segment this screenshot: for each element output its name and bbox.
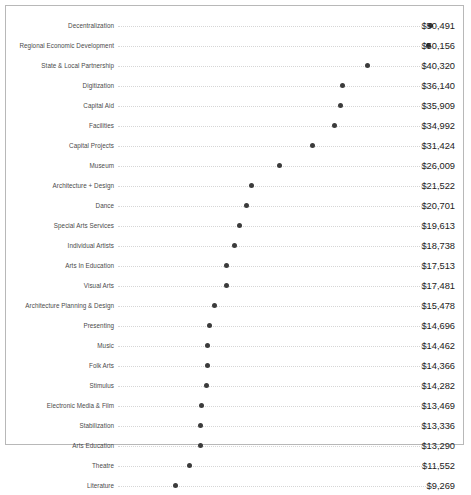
- leader-line: [118, 126, 450, 128]
- dot-plot-row[interactable]: Arts In Education$17,513: [6, 256, 463, 276]
- dot-plot-row[interactable]: Architecture + Design$21,522: [6, 176, 463, 196]
- dot-plot-row[interactable]: Capital Projects$31,424: [6, 136, 463, 156]
- leader-line: [118, 266, 450, 268]
- data-point-dot[interactable]: [244, 203, 249, 208]
- data-point-dot[interactable]: [338, 103, 343, 108]
- value-label: $14,696: [421, 316, 455, 336]
- leader-line: [118, 306, 450, 308]
- value-label: $21,522: [421, 176, 455, 196]
- value-label: $19,613: [421, 216, 455, 236]
- category-label: Capital Projects: [6, 136, 114, 156]
- dot-plot-row[interactable]: Museum$26,009: [6, 156, 463, 176]
- dot-plot-row[interactable]: Music$14,462: [6, 336, 463, 356]
- data-point-dot[interactable]: [173, 483, 178, 488]
- category-label: Visual Arts: [6, 276, 114, 296]
- leader-line: [118, 426, 450, 428]
- dot-plot-row[interactable]: Theatre$11,552: [6, 456, 463, 476]
- category-label: Literature: [6, 476, 114, 495]
- dot-plot-row[interactable]: Dance$20,701: [6, 196, 463, 216]
- value-label: $50,156: [421, 36, 455, 56]
- dot-plot-row[interactable]: Facilities$34,992: [6, 116, 463, 136]
- dot-plot-row[interactable]: Literature$9,269: [6, 476, 463, 495]
- value-label: $36,140: [421, 76, 455, 96]
- dot-plot-row[interactable]: Presenting$14,696: [6, 316, 463, 336]
- value-label: $13,290: [421, 436, 455, 456]
- value-label: $50,491: [421, 16, 455, 36]
- leader-line: [118, 26, 450, 28]
- category-label: Architecture Planning & Design: [6, 296, 114, 316]
- dot-plot-row[interactable]: Stabilization$13,336: [6, 416, 463, 436]
- category-label: Arts In Education: [6, 256, 114, 276]
- data-point-dot[interactable]: [237, 223, 242, 228]
- chart-frame: Decentralization$50,491Regional Economic…: [5, 5, 464, 445]
- data-point-dot[interactable]: [249, 183, 254, 188]
- value-label: $14,462: [421, 336, 455, 356]
- category-label: Digitization: [6, 76, 114, 96]
- value-label: $14,366: [421, 356, 455, 376]
- category-label: Regional Economic Development: [6, 36, 114, 56]
- category-label: Arts Education: [6, 436, 114, 456]
- leader-line: [118, 466, 450, 468]
- value-label: $14,282: [421, 376, 455, 396]
- data-point-dot[interactable]: [277, 163, 282, 168]
- dot-plot-rows: Decentralization$50,491Regional Economic…: [6, 6, 463, 444]
- dot-plot-row[interactable]: Regional Economic Development$50,156: [6, 36, 463, 56]
- category-label: Stimulus: [6, 376, 114, 396]
- category-label: Individual Artists: [6, 236, 114, 256]
- value-label: $26,009: [421, 156, 455, 176]
- leader-line: [118, 86, 450, 88]
- value-label: $11,552: [422, 456, 455, 476]
- data-point-dot[interactable]: [232, 243, 237, 248]
- data-point-dot[interactable]: [310, 143, 315, 148]
- data-point-dot[interactable]: [224, 263, 229, 268]
- data-point-dot[interactable]: [212, 303, 217, 308]
- leader-line: [118, 486, 450, 488]
- category-label: State & Local Partnership: [6, 56, 114, 76]
- value-label: $18,738: [421, 236, 455, 256]
- dot-plot-row[interactable]: Folk Arts$14,366: [6, 356, 463, 376]
- category-label: Capital Aid: [6, 96, 114, 116]
- category-label: Special Arts Services: [6, 216, 114, 236]
- data-point-dot[interactable]: [204, 383, 209, 388]
- category-label: Theatre: [6, 456, 114, 476]
- dot-plot-row[interactable]: Special Arts Services$19,613: [6, 216, 463, 236]
- dot-plot-row[interactable]: State & Local Partnership$40,320: [6, 56, 463, 76]
- leader-line: [118, 326, 450, 328]
- data-point-dot[interactable]: [224, 283, 229, 288]
- data-point-dot[interactable]: [207, 323, 212, 328]
- leader-line: [118, 286, 450, 288]
- leader-line: [118, 46, 450, 48]
- value-label: $15,478: [421, 296, 455, 316]
- category-label: Facilities: [6, 116, 114, 136]
- value-label: $9,269: [427, 476, 455, 495]
- value-label: $40,320: [421, 56, 455, 76]
- leader-line: [118, 446, 450, 448]
- leader-line: [118, 226, 450, 228]
- category-label: Presenting: [6, 316, 114, 336]
- value-label: $17,513: [421, 256, 455, 276]
- dot-plot-row[interactable]: Digitization$36,140: [6, 76, 463, 96]
- data-point-dot[interactable]: [198, 443, 203, 448]
- dot-plot-row[interactable]: Arts Education$13,290: [6, 436, 463, 456]
- leader-line: [118, 366, 450, 368]
- data-point-dot[interactable]: [365, 63, 370, 68]
- value-label: $31,424: [421, 136, 455, 156]
- category-label: Folk Arts: [6, 356, 114, 376]
- data-point-dot[interactable]: [340, 83, 345, 88]
- dot-plot-row[interactable]: Visual Arts$17,481: [6, 276, 463, 296]
- leader-line: [118, 206, 450, 208]
- leader-line: [118, 186, 450, 188]
- value-label: $34,992: [421, 116, 455, 136]
- leader-line: [118, 146, 450, 148]
- category-label: Museum: [6, 156, 114, 176]
- dot-plot-row[interactable]: Individual Artists$18,738: [6, 236, 463, 256]
- dot-plot-row[interactable]: Decentralization$50,491: [6, 16, 463, 36]
- data-point-dot[interactable]: [205, 363, 210, 368]
- dot-plot-row[interactable]: Electronic Media & Film$13,469: [6, 396, 463, 416]
- leader-line: [118, 246, 450, 248]
- dot-plot-row[interactable]: Capital Aid$35,909: [6, 96, 463, 116]
- dot-plot-row[interactable]: Architecture Planning & Design$15,478: [6, 296, 463, 316]
- data-point-dot[interactable]: [199, 403, 204, 408]
- dot-plot-row[interactable]: Stimulus$14,282: [6, 376, 463, 396]
- category-label: Dance: [6, 196, 114, 216]
